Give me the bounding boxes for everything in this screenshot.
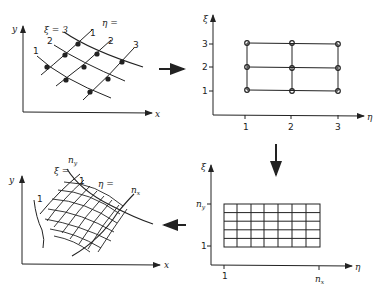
grid-transformation-diagram: y x ξ = 3 η = 1 2 1 2 3 ξ η 3 2 1 1 2 3 — [0, 0, 381, 293]
xi-tick-2: 2 — [47, 36, 53, 46]
eta-tick-2: 2 — [108, 36, 114, 46]
xi-tick-1: 1 — [202, 86, 208, 96]
panel-computational-discrete — [209, 15, 364, 119]
xi-tick-ny: ny — [68, 155, 78, 167]
x-axis-label: x — [155, 109, 160, 119]
xi-label: ξ = — [54, 166, 69, 176]
xi-tick-2: 2 — [202, 62, 208, 72]
eta-tick-1: 1 — [37, 194, 43, 204]
eta-axis-label: η — [355, 262, 361, 272]
panel-physical-grid — [22, 169, 160, 265]
eta-tick-3: 3 — [133, 40, 139, 50]
eta-tick-nx: nx — [315, 274, 325, 285]
eta-tick-nx: nx — [131, 185, 141, 196]
eta-label: η = — [98, 179, 114, 189]
eta-tick-3: 3 — [335, 122, 341, 132]
xi-tick-ny: ny — [196, 199, 206, 211]
eta-axis — [213, 115, 364, 116]
diagram-canvas: y x ξ = 3 η = 1 2 1 2 3 ξ η 3 2 1 1 2 3 — [0, 0, 381, 293]
x-axis-label: x — [164, 260, 169, 270]
xi-tick-3: 3 — [202, 39, 208, 49]
eta-axis-label: η — [367, 112, 373, 122]
grid-lines — [224, 204, 320, 247]
xi-tick-1: 1 — [79, 176, 85, 186]
x-axis — [22, 264, 160, 265]
eta-tick-1: 1 — [243, 122, 249, 132]
panel-computational-grid — [207, 165, 352, 270]
xi-label: ξ = 3 — [44, 25, 68, 35]
x-axis — [23, 112, 152, 113]
xi-tick-1: 1 — [33, 46, 39, 56]
y-axis-label: y — [8, 175, 15, 185]
y-axis-label: y — [11, 24, 18, 34]
eta-label: η = — [102, 18, 118, 28]
xi-axis-label: ξ — [201, 162, 207, 172]
xi-tick-1: 1 — [201, 241, 207, 251]
xi-axis-label: ξ — [203, 14, 209, 24]
eta-axis — [211, 265, 352, 266]
eta-tick-2: 2 — [288, 122, 294, 132]
eta-tick-1: 1 — [90, 28, 96, 38]
eta-tick-1: 1 — [222, 271, 228, 281]
